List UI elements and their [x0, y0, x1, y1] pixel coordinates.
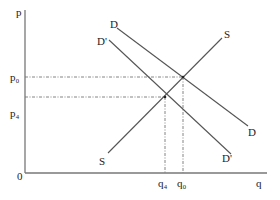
supply-s-label-start: S — [99, 155, 105, 167]
equilibrium-point-original — [182, 76, 185, 79]
equilibrium-point-shifted — [164, 96, 167, 99]
price-label-p0: p₀ — [10, 71, 20, 83]
demand-curve-d-prime — [109, 40, 231, 154]
quantity-label-q4: q₄ — [158, 177, 168, 189]
demand-d-prime-label-start: D' — [97, 35, 107, 47]
y-axis-label: p — [16, 6, 22, 18]
origin-label: 0 — [17, 170, 23, 182]
x-axis-label: q — [256, 177, 262, 189]
supply-demand-diagram: p q 0 p₀ p₄ q₄ q₀ D D D' D' S S — [0, 0, 280, 200]
demand-d-label-start: D — [110, 18, 118, 30]
price-label-p4: p₄ — [10, 107, 20, 119]
demand-d-prime-label-end: D' — [222, 152, 232, 164]
quantity-label-q0: q₀ — [177, 177, 187, 189]
supply-s-label-end: S — [224, 28, 230, 40]
demand-d-label-end: D — [248, 126, 256, 138]
